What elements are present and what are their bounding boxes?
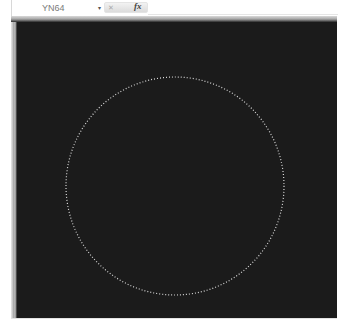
circle-outline bbox=[66, 77, 284, 295]
dotted-circle-shape bbox=[0, 0, 347, 329]
